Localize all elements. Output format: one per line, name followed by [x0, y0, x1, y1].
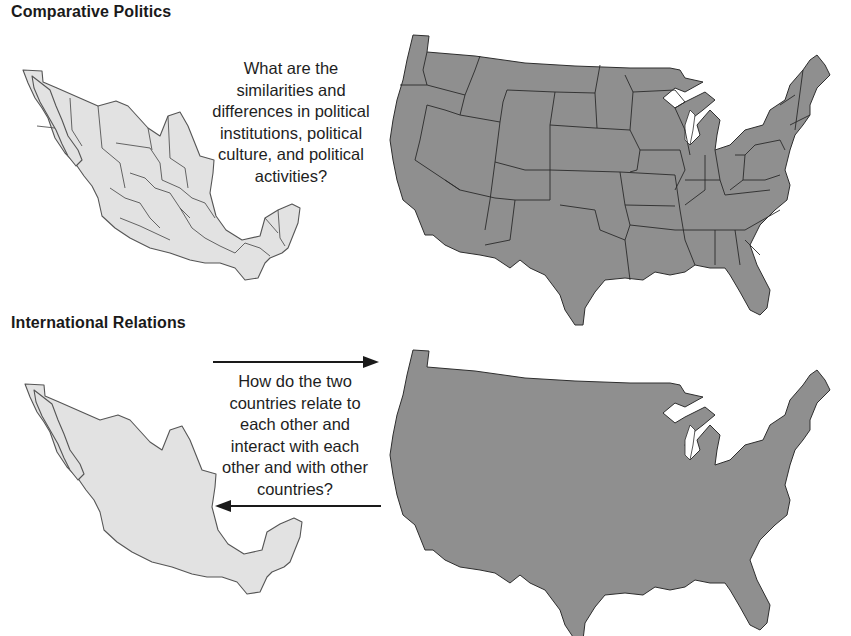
question-line: similarities and [196, 80, 386, 102]
section-title-comparative: Comparative Politics [11, 3, 171, 21]
question-line: culture, and political [196, 144, 386, 166]
question-line: each other and [200, 414, 390, 436]
question-line: other and with other [200, 457, 390, 479]
question-line: countries? [200, 479, 390, 501]
question-line: activities? [196, 166, 386, 188]
question-line: How do the two [200, 371, 390, 393]
question-line: What are the [196, 58, 386, 80]
usa-map-outline [385, 345, 835, 635]
question-line: countries relate to [200, 393, 390, 415]
question-comparative: What are the similarities and difference… [196, 58, 386, 187]
usa-map-states [385, 30, 835, 320]
question-line: institutions, political [196, 123, 386, 145]
question-line: interact with each [200, 436, 390, 458]
section-title-international: International Relations [11, 314, 186, 332]
question-international: How do the two countries relate to each … [200, 371, 390, 500]
arrow-left-icon [215, 500, 381, 512]
question-line: differences in political [196, 101, 386, 123]
arrow-right-icon [213, 356, 379, 368]
